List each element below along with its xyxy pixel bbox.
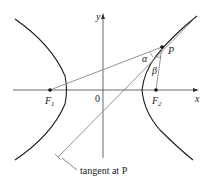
point-P: [160, 45, 164, 49]
beta-label: β: [151, 65, 157, 76]
origin-label: 0: [95, 93, 100, 104]
hyperbola-left-branch: [15, 19, 67, 160]
focus-F1-point: [48, 88, 52, 92]
F2-label: F2: [151, 95, 162, 108]
P-label: P: [167, 45, 174, 56]
tangent-line: [58, 18, 195, 157]
x-axis-arrow-icon: [193, 88, 199, 92]
y-axis-label: y: [95, 11, 101, 22]
hyperbola-diagram: y x 0 F1 F2 P α β tangent at P: [0, 0, 207, 184]
F1-label: F1: [44, 95, 55, 108]
annotation-pointer: [62, 158, 77, 170]
diagram-canvas: y x 0 F1 F2 P α β tangent at P: [0, 0, 207, 184]
alpha-label: α: [142, 53, 148, 64]
x-axis-label: x: [194, 93, 200, 104]
hyperbola-right-branch: [142, 16, 197, 160]
y-axis-arrow-icon: [101, 13, 105, 19]
focus-F2-point: [154, 88, 158, 92]
alpha-arc: [150, 52, 153, 57]
tangent-annotation: tangent at P: [80, 165, 128, 176]
